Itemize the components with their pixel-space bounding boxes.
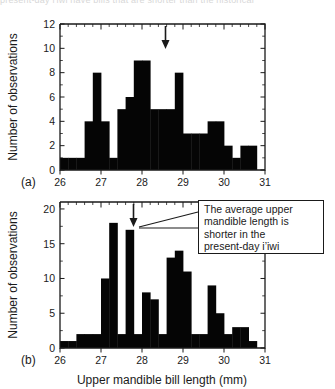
histogram-bar — [191, 134, 200, 171]
histogram-bar — [76, 158, 85, 170]
histogram-bar — [216, 121, 225, 170]
histogram-bar — [183, 272, 192, 348]
panel-b-x-tick-labels: 262728293031 — [54, 354, 271, 366]
figure-root: present-day i'iwi have bills that are sh… — [0, 0, 335, 389]
panel-a-mean-arrow — [162, 26, 170, 49]
histogram-bar — [142, 292, 151, 348]
histogram-bar — [167, 109, 176, 170]
histogram-bar — [117, 334, 126, 348]
histogram-bar — [134, 61, 143, 171]
histogram-bar — [126, 97, 135, 170]
panel-a-right-ticks — [261, 24, 266, 170]
histogram-bar — [232, 327, 241, 348]
y-tick-label: 0 — [49, 164, 55, 176]
x-tick-label: 27 — [95, 354, 107, 366]
histogram-bar — [68, 158, 77, 170]
panel-a-y-ticks — [60, 24, 65, 170]
histogram-bar — [240, 146, 249, 170]
y-tick-label: 8 — [49, 66, 55, 78]
y-tick-label: 4 — [49, 115, 55, 127]
histogram-bar — [76, 334, 85, 348]
cut-off-header-text: present-day i'iwi have bills that are sh… — [0, 0, 335, 9]
y-tick-label: 2 — [49, 139, 55, 151]
panel-b-mean-arrow — [130, 204, 138, 227]
panel-a-y-tick-labels: 024681012 — [43, 18, 55, 176]
x-tick-label: 29 — [177, 354, 189, 366]
panel-a-x-tick-labels: 262728293031 — [54, 176, 271, 188]
histogram-bar — [249, 146, 258, 170]
annotation-line-4: present-day i’iwi — [204, 240, 319, 252]
panel-a-bars — [60, 61, 257, 171]
x-tick-label: 27 — [95, 176, 107, 188]
panel-b-y-tick-labels: 05101520 — [43, 203, 55, 354]
histogram-bar — [199, 134, 208, 171]
y-tick-label: 15 — [43, 238, 55, 250]
histogram-bar — [126, 230, 135, 348]
histogram-bar — [93, 334, 102, 348]
x-tick-label: 26 — [54, 176, 66, 188]
histogram-bar — [183, 134, 192, 171]
y-tick-label: 0 — [49, 342, 55, 354]
histogram-bar — [109, 158, 118, 170]
panel-a: 024681012 262728293031 (a) — [21, 18, 271, 189]
histogram-bar — [60, 341, 69, 348]
histogram-bar — [117, 109, 126, 170]
histogram-bar — [249, 341, 258, 348]
panel-b-y-axis-title: Number of observations — [6, 211, 20, 338]
histogram-bar — [158, 334, 167, 348]
y-tick-label: 20 — [43, 203, 55, 215]
histogram-bar — [142, 61, 151, 171]
histogram-bar — [191, 334, 200, 348]
histogram-bar — [101, 121, 110, 170]
x-tick-label: 30 — [218, 354, 230, 366]
panel-b-x-ticks — [60, 348, 265, 353]
x-tick-label: 28 — [136, 354, 148, 366]
histogram-bar — [60, 158, 69, 170]
histogram-bar — [134, 334, 143, 348]
y-tick-label: 10 — [43, 272, 55, 284]
x-tick-label: 26 — [54, 354, 66, 366]
panel-b-label: (b) — [21, 353, 36, 367]
panel-a-top-ticks — [60, 24, 265, 30]
histogram-bar — [150, 299, 159, 348]
x-tick-label: 31 — [259, 176, 271, 188]
histogram-bar — [85, 334, 94, 348]
histogram-bar — [150, 109, 159, 170]
x-tick-label: 29 — [177, 176, 189, 188]
annotation-line-3: shorter in the — [204, 228, 319, 240]
histogram-bar — [199, 334, 208, 348]
x-tick-label: 30 — [218, 176, 230, 188]
histogram-bar — [224, 334, 233, 348]
histogram-bar — [101, 278, 110, 348]
histogram-bar — [167, 258, 176, 348]
histogram-bar — [240, 327, 249, 348]
panel-a-y-axis-title: Number of observations — [6, 33, 20, 160]
annotation-callout: The average upper mandible length is sho… — [198, 200, 324, 254]
panel-a-label: (a) — [21, 175, 36, 189]
histogram-bar — [158, 109, 167, 170]
y-tick-label: 6 — [49, 91, 55, 103]
histogram-bar — [216, 313, 225, 348]
x-axis-title: Upper mandible bill length (mm) — [77, 373, 247, 387]
annotation-leader-lines — [139, 212, 198, 228]
histogram-bar — [109, 223, 118, 348]
y-tick-label: 12 — [43, 18, 55, 30]
histogram-bar — [175, 251, 184, 348]
histogram-bar — [224, 146, 233, 170]
x-tick-label: 28 — [136, 176, 148, 188]
histogram-bar — [93, 73, 102, 170]
histogram-bar — [208, 285, 217, 348]
annotation-line-2: mandible length is — [204, 215, 319, 227]
panel-b-y-ticks — [60, 209, 65, 348]
panel-a-x-ticks — [60, 170, 265, 175]
histogram-bar — [232, 158, 241, 170]
histogram-bar — [85, 121, 94, 170]
x-tick-label: 31 — [259, 354, 271, 366]
histogram-bar — [175, 73, 184, 170]
histogram-figure-svg: 024681012 262728293031 (a) Number of obs… — [0, 0, 335, 389]
histogram-bar — [68, 341, 77, 348]
y-tick-label: 10 — [43, 42, 55, 54]
annotation-line-1: The average upper — [204, 203, 319, 215]
histogram-bar — [208, 121, 217, 170]
y-tick-label: 5 — [49, 307, 55, 319]
